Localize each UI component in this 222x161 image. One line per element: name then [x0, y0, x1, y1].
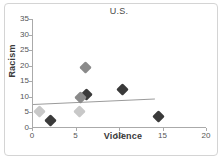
- y-tick-label: 20: [3, 62, 29, 70]
- data-point-marker: [73, 105, 86, 118]
- data-markers-layer: [32, 19, 206, 128]
- y-tick-label: 10: [3, 93, 29, 101]
- chart-title: U.S.: [32, 6, 206, 16]
- y-axis-tick-labels: 05101520253035: [0, 19, 29, 128]
- y-tick-label: 35: [3, 15, 29, 23]
- data-point-marker: [44, 114, 57, 127]
- x-tick-label: 5: [64, 131, 88, 140]
- data-point-marker: [33, 105, 46, 118]
- chart-figure: U.S. Racism 05101520253035 05101520 Viol…: [0, 0, 222, 161]
- y-tick-label: 15: [3, 77, 29, 85]
- data-point-marker: [116, 83, 129, 96]
- x-tick-mark: [32, 128, 33, 131]
- x-tick-mark: [119, 128, 120, 131]
- x-tick-mark: [76, 128, 77, 131]
- x-tick-mark: [206, 128, 207, 131]
- data-point-marker: [80, 61, 93, 74]
- x-tick-label: 20: [194, 131, 218, 140]
- y-tick-label: 5: [3, 108, 29, 116]
- y-tick-label: 30: [3, 31, 29, 39]
- x-tick-mark: [163, 128, 164, 131]
- data-point-marker: [152, 110, 165, 123]
- x-tick-label: 0: [20, 131, 44, 140]
- x-axis-title: Violence: [88, 131, 158, 141]
- y-tick-label: 25: [3, 46, 29, 54]
